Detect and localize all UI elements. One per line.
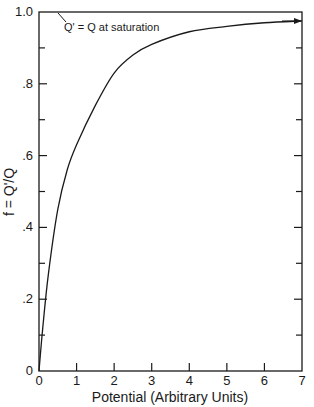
annotation-text: Q' = Q at saturation — [64, 21, 159, 33]
x-tick-label: 7 — [298, 373, 305, 388]
y-axis-ticks: 0.2.4.6.81.0 — [15, 4, 302, 378]
x-tick-label: 1 — [73, 373, 80, 388]
x-axis-title: Potential (Arbitrary Units) — [92, 389, 248, 405]
saturation-curve — [39, 21, 302, 371]
y-tick-label: .8 — [22, 76, 33, 91]
plot-frame — [39, 12, 302, 371]
y-tick-label: .2 — [22, 291, 33, 306]
x-tick-label: 0 — [35, 373, 42, 388]
x-tick-label: 5 — [223, 373, 230, 388]
saturation-chart: 0.2.4.6.81.0 01234567 Q' = Q at saturati… — [0, 0, 314, 407]
y-axis-title: f = Q'/Q — [1, 168, 17, 216]
y-tick-label: 0 — [26, 363, 33, 378]
x-tick-label: 2 — [111, 373, 118, 388]
x-tick-label: 3 — [148, 373, 155, 388]
y-tick-label: .6 — [22, 148, 33, 163]
x-axis-ticks: 01234567 — [35, 363, 305, 388]
x-tick-label: 4 — [186, 373, 193, 388]
y-tick-label: .4 — [22, 219, 33, 234]
y-tick-label: 1.0 — [15, 4, 33, 19]
x-tick-label: 6 — [261, 373, 268, 388]
